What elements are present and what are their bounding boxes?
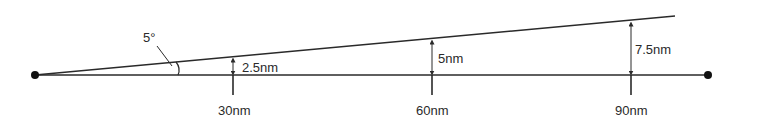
diagram-canvas: 5° 2.5nm 5nm 7.5nm 30nm 60nm 90nm <box>0 0 759 125</box>
end-dot <box>704 71 712 79</box>
distance-label-90: 90nm <box>615 104 648 117</box>
slanted-line <box>35 16 675 75</box>
offset-label-60: 5nm <box>438 52 463 65</box>
distance-label-30: 30nm <box>218 104 251 117</box>
distance-label-60: 60nm <box>416 104 449 117</box>
angle-arc <box>176 62 179 75</box>
origin-dot <box>31 71 39 79</box>
offset-label-30: 2.5nm <box>242 61 278 74</box>
offset-label-90: 7.5nm <box>635 43 671 56</box>
angle-label: 5° <box>143 31 155 44</box>
